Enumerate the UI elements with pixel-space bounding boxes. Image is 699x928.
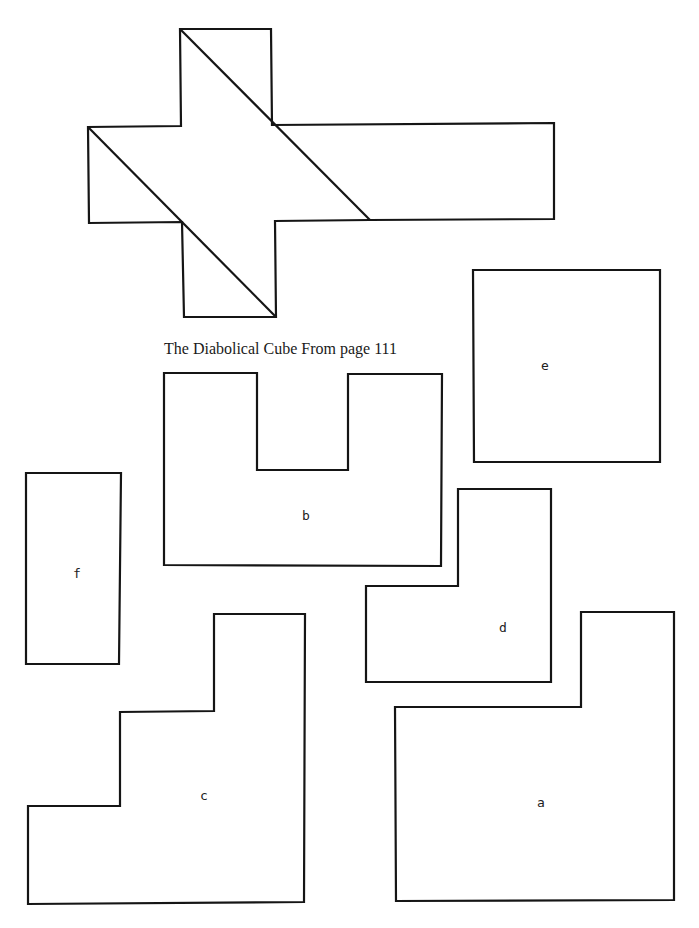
piece-f: f bbox=[26, 473, 121, 664]
piece-d-outline bbox=[366, 489, 551, 682]
piece-d: d bbox=[366, 489, 551, 682]
cube-net-outline bbox=[88, 29, 554, 317]
piece-c-label: c bbox=[200, 788, 208, 803]
piece-b: b bbox=[164, 373, 442, 566]
piece-b-label: b bbox=[302, 508, 310, 523]
piece-e-outline bbox=[473, 270, 660, 462]
piece-a: a bbox=[395, 612, 674, 901]
figure-caption: The Diabolical Cube From page 111 bbox=[164, 340, 397, 358]
cube-net bbox=[88, 29, 554, 317]
piece-b-outline bbox=[164, 373, 442, 566]
piece-e-label: e bbox=[541, 358, 549, 373]
diagram-canvas: e b f d c a bbox=[0, 0, 699, 928]
piece-f-label: f bbox=[73, 566, 81, 581]
piece-e: e bbox=[473, 270, 660, 462]
piece-d-label: d bbox=[499, 620, 507, 635]
piece-c-outline bbox=[28, 614, 305, 904]
piece-a-label: a bbox=[537, 795, 545, 810]
piece-a-outline bbox=[395, 612, 674, 901]
piece-c: c bbox=[28, 614, 305, 904]
